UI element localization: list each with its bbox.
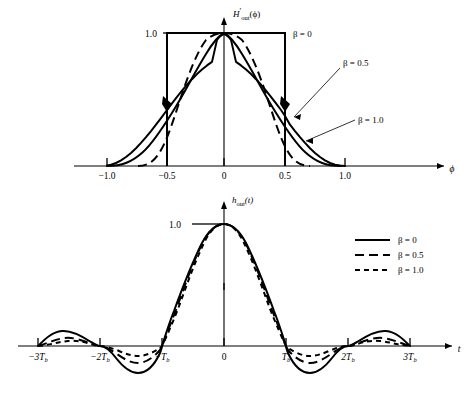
top-chart-annotation-beta-05: β = 0.5 — [343, 58, 369, 68]
top-chart-ytick-label-1: 1.0 — [145, 29, 157, 39]
bottom-tick-p3-main: 3T — [402, 352, 414, 362]
bottom-chart-ytick-label-1: 1.0 — [169, 220, 181, 230]
bottom-chart-x-axis-label: t — [458, 344, 461, 354]
figure-svg: 1.0 −1.0 −0.5 0 0.5 1.0 ϕ H′out(ϕ) β = 0… — [0, 0, 469, 400]
figure-container: 1.0 −1.0 −0.5 0 0.5 1.0 ϕ H′out(ϕ) β = 0… — [0, 0, 469, 400]
top-chart-ylabel-sub: out — [241, 14, 250, 21]
svg-text:H′out(ϕ): H′out(ϕ) — [232, 7, 260, 21]
top-chart-xtick-label-neg1: −1.0 — [98, 171, 115, 181]
bottom-chart-x-axis — [18, 343, 452, 349]
bottom-tick-p3-sub: b — [413, 356, 417, 363]
bottom-chart-y-axis-label: hout(t) — [232, 195, 253, 207]
top-chart-y-axis — [221, 17, 227, 166]
bottom-chart-xtick-neg3Tb: −3Tb — [28, 352, 48, 363]
svg-text:hout(t): hout(t) — [232, 195, 253, 207]
bottom-tick-m3-main: −3T — [28, 352, 45, 362]
bottom-chart-ylabel-sub: out — [237, 200, 246, 207]
bottom-chart-tick-labels: −3Tb −2Tb −Tb 0 Tb 2Tb 3Tb — [28, 352, 417, 363]
top-chart-xtick-label-neg05: −0.5 — [158, 171, 175, 181]
legend-label-beta-05: β = 0.5 — [398, 250, 424, 260]
legend-item-beta-0: β = 0 — [355, 235, 417, 245]
bottom-chart-xtick-neg2Tb: −2Tb — [90, 352, 110, 363]
top-chart-x-axis-label: ϕ — [450, 164, 455, 174]
legend-label-beta-0: β = 0 — [398, 235, 417, 245]
top-chart-y-axis-label: H′out(ϕ) — [232, 7, 260, 21]
bottom-chart: −3Tb −2Tb −Tb 0 Tb 2Tb 3Tb 1.0 t hou — [18, 195, 461, 373]
top-curve-beta-1 — [107, 34, 345, 166]
top-chart-ylabel-arg: (ϕ) — [250, 9, 261, 19]
top-chart-xtick-label-0: 0 — [222, 171, 227, 181]
bottom-tick-p2-sub: b — [351, 356, 355, 363]
bottom-chart-xtick-2Tb: 2Tb — [341, 352, 355, 363]
bottom-chart-y-axis — [221, 201, 227, 346]
bottom-chart-xtick-Tb: Tb — [282, 352, 291, 363]
top-chart-xtick-label-1: 1.0 — [339, 171, 351, 181]
top-chart-xtick-label-05: 0.5 — [279, 171, 291, 181]
top-chart: 1.0 −1.0 −0.5 0 0.5 1.0 ϕ H′out(ϕ) β = 0… — [74, 7, 455, 181]
top-chart-x-axis — [74, 163, 444, 169]
bottom-chart-xtick-negTb: −Tb — [155, 352, 171, 363]
bottom-tick-m1-main: −T — [155, 352, 167, 362]
bottom-tick-m3-sub: b — [45, 356, 49, 363]
bottom-tick-m1-sub: b — [166, 356, 170, 363]
bottom-tick-m2-main: −2T — [90, 352, 107, 362]
bottom-chart-xtick-0: 0 — [222, 352, 227, 362]
bottom-chart-legend: β = 0 β = 0.5 β = 1.0 — [355, 235, 424, 275]
legend-item-beta-10: β = 1.0 — [355, 265, 424, 275]
legend-item-beta-05: β = 0.5 — [355, 250, 424, 260]
legend-label-beta-10: β = 1.0 — [398, 265, 424, 275]
bottom-chart-xtick-3Tb: 3Tb — [402, 352, 417, 363]
top-chart-annotation-leaders — [294, 68, 355, 144]
bottom-chart-ylabel-arg: (t) — [245, 195, 254, 205]
bottom-tick-m2-sub: b — [107, 356, 111, 363]
top-chart-annotation-beta-10: β = 1.0 — [358, 115, 384, 125]
top-chart-annotation-beta-0: β = 0 — [293, 29, 312, 39]
